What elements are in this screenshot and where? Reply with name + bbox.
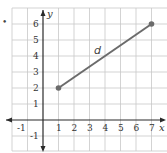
svg-text:6: 6 xyxy=(134,123,140,133)
coordinate-plane: • y x -1 1 2 xyxy=(0,0,167,153)
svg-text:4: 4 xyxy=(103,123,109,133)
svg-text:-1: -1 xyxy=(17,123,26,133)
svg-text:2: 2 xyxy=(72,123,78,133)
svg-text:3: 3 xyxy=(87,123,93,133)
svg-text:1: 1 xyxy=(33,99,39,109)
svg-text:7: 7 xyxy=(149,123,155,133)
svg-text:3: 3 xyxy=(33,67,39,77)
y-tick-labels: 6 5 4 3 2 1 -1 xyxy=(30,19,39,141)
svg-text:2: 2 xyxy=(33,83,39,93)
endpoint-7-6 xyxy=(149,21,155,27)
endpoint-1-2 xyxy=(56,85,62,91)
segment-label-d: d xyxy=(94,44,102,57)
svg-text:1: 1 xyxy=(56,123,62,133)
svg-text:5: 5 xyxy=(118,123,124,133)
svg-text:4: 4 xyxy=(33,51,39,61)
y-axis-label: y xyxy=(46,8,53,19)
svg-text:5: 5 xyxy=(33,35,39,45)
svg-text:6: 6 xyxy=(33,19,39,29)
svg-text:-1: -1 xyxy=(30,131,39,141)
x-axis-label: x xyxy=(159,122,165,133)
y-axis-up-arrow-icon xyxy=(41,10,46,16)
x-axis-left-arrow-icon xyxy=(6,118,12,123)
problem-bullet: • xyxy=(2,17,7,27)
